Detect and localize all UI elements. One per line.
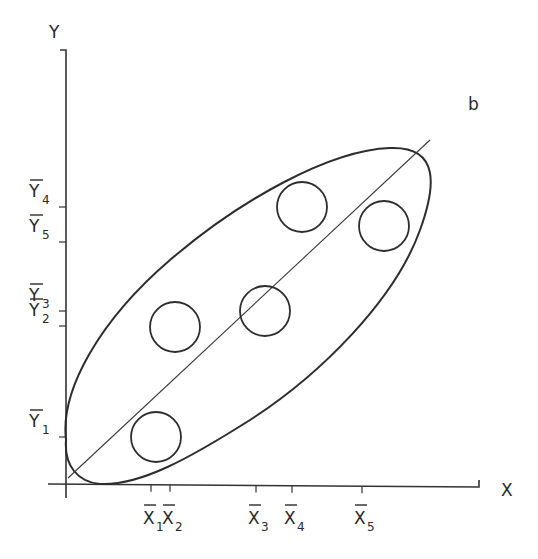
x-tick-subscript: 5 [367, 520, 375, 534]
y-tick-label: Y [28, 181, 40, 201]
x-tick-subscript: 2 [175, 520, 183, 534]
group-1-circle [131, 412, 181, 462]
axes [48, 50, 479, 498]
x-tick-label: X [284, 508, 296, 528]
x-ticks: X1X2X3X4X5 [143, 485, 375, 534]
confidence-ellipse [65, 148, 430, 484]
group-2-circle [150, 302, 200, 352]
group-4-circle [277, 182, 327, 232]
x-tick-label: X [143, 508, 155, 528]
y-ticks: Y4Y5Y3Y2Y1 [28, 180, 66, 437]
x-tick-label: X [162, 508, 174, 528]
group-circles [131, 182, 409, 462]
x-tick-subscript: 3 [261, 520, 269, 534]
y-tick-label: Y [28, 216, 40, 236]
x-tick-subscript: 4 [297, 520, 305, 534]
panel-label: b [468, 94, 479, 114]
diagram-canvas: Y X b X1X2X3X4X5 Y4Y5Y3Y2Y1 [0, 0, 538, 559]
group-5-circle [359, 201, 409, 251]
y-tick-subscript: 2 [42, 312, 50, 326]
y-tick-subscript: 4 [42, 193, 50, 207]
y-tick-subscript: 5 [42, 228, 50, 242]
y-axis-label: Y [48, 22, 60, 42]
y-tick-subscript: 1 [42, 423, 50, 437]
x-tick-label: X [248, 508, 260, 528]
y-tick-label: Y [28, 300, 40, 320]
y-tick-subscript: 3 [42, 297, 50, 311]
x-tick-label: X [354, 508, 366, 528]
y-tick-label: Y [28, 411, 40, 431]
x-axis-label: X [501, 480, 513, 500]
